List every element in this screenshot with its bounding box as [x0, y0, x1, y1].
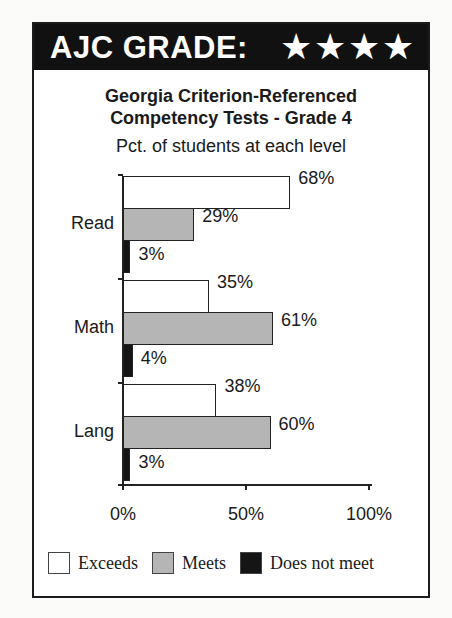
grade-card: AJC GRADE: ★★★★ Georgia Criterion-Refere… — [32, 22, 430, 598]
x-axis-tick — [368, 484, 370, 490]
bar-read-exceeds — [123, 176, 290, 209]
value-label: 68% — [298, 168, 334, 189]
value-label: 60% — [279, 414, 315, 435]
legend-item-meets: Meets — [152, 552, 226, 574]
legend-label: Meets — [182, 553, 226, 574]
value-label: 29% — [202, 206, 238, 227]
legend: ExceedsMeetsDoes not meet — [48, 552, 388, 574]
x-tick-label: 100% — [346, 504, 392, 525]
value-label: 3% — [138, 452, 164, 473]
legend-item-exceeds: Exceeds — [48, 552, 138, 574]
legend-swatch — [152, 552, 174, 574]
bar-chart: 0%50%100%Read68%29%3%Math35%61%4%Lang38%… — [34, 24, 428, 596]
category-label-math: Math — [54, 317, 114, 338]
x-axis-tick — [245, 484, 247, 490]
bar-read-does-not-meet — [123, 240, 130, 273]
value-label: 3% — [138, 244, 164, 265]
x-tick-label: 50% — [228, 504, 264, 525]
legend-swatch — [240, 552, 262, 574]
bar-lang-exceeds — [123, 384, 216, 417]
legend-label: Does not meet — [270, 553, 374, 574]
value-label: 4% — [141, 348, 167, 369]
bar-math-meets — [123, 312, 273, 345]
category-label-lang: Lang — [54, 421, 114, 442]
bar-read-meets — [123, 208, 194, 241]
bar-math-exceeds — [123, 280, 209, 313]
bar-math-does-not-meet — [123, 344, 133, 377]
value-label: 61% — [281, 310, 317, 331]
x-axis-tick — [122, 484, 124, 490]
legend-swatch — [48, 552, 70, 574]
category-label-read: Read — [54, 213, 114, 234]
value-label: 38% — [224, 376, 260, 397]
legend-label: Exceeds — [78, 553, 138, 574]
value-label: 35% — [217, 272, 253, 293]
x-tick-label: 0% — [110, 504, 136, 525]
bar-lang-meets — [123, 416, 271, 449]
bar-lang-does-not-meet — [123, 448, 130, 481]
legend-item-does-not-meet: Does not meet — [240, 552, 374, 574]
